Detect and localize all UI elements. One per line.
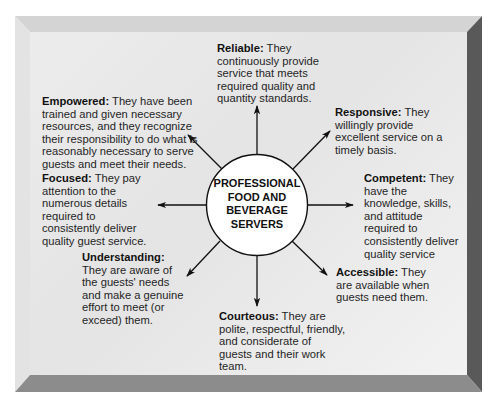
term-responsive: Responsive:: [335, 106, 402, 118]
center-line-1: PROFESSIONAL: [207, 177, 307, 191]
quality-accessible: Accessible: They are available when gues…: [336, 266, 432, 304]
quality-reliable: Reliable: They continuously provide serv…: [217, 42, 337, 105]
desc-competent: They have the knowledge, skills, and att…: [364, 172, 459, 260]
term-focused: Focused:: [42, 172, 92, 184]
arrow-accessible: [292, 241, 327, 275]
quality-competent: Competent: They have the knowledge, skil…: [364, 172, 462, 260]
center-line-3: BEVERAGE: [207, 204, 307, 218]
term-courteous: Courteous:: [219, 310, 279, 322]
term-accessible: Accessible:: [336, 266, 398, 278]
quality-empowered: Empowered: They have been trained and gi…: [42, 95, 208, 171]
arrow-responsive: [293, 131, 330, 169]
quality-focused: Focused: They pay attention to the numer…: [42, 172, 154, 248]
quality-responsive: Responsive: They willingly provide excel…: [335, 106, 443, 156]
quality-courteous: Courteous: They are polite, respectful, …: [219, 310, 347, 373]
term-understanding: Understanding:: [82, 251, 165, 263]
center-line-4: SERVERS: [207, 218, 307, 232]
term-reliable: Reliable:: [217, 42, 264, 54]
quality-understanding: Understanding: They are aware of the gue…: [82, 251, 186, 327]
term-competent: Competent:: [364, 172, 426, 184]
center-label: PROFESSIONAL FOOD AND BEVERAGE SERVERS: [207, 177, 307, 231]
term-empowered: Empowered:: [42, 95, 109, 107]
desc-understanding: They are aware of the guests' needs and …: [82, 264, 183, 326]
arrow-understanding: [187, 241, 220, 276]
center-line-2: FOOD AND: [207, 191, 307, 205]
